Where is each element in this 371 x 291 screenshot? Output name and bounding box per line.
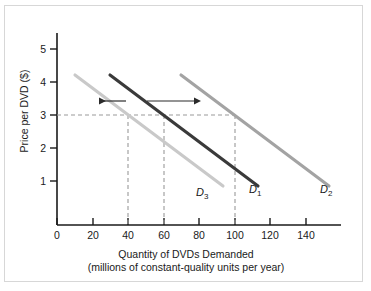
dashed-guide-lines — [57, 115, 235, 225]
curve-label-d2-sub: 2 — [328, 189, 332, 198]
curve-label-d1-text: D — [249, 183, 257, 195]
x-tick-label-140: 140 — [291, 229, 321, 241]
curve-label-d1: D1 — [249, 183, 261, 198]
curve-label-d2-text: D — [320, 183, 328, 195]
x-tick-marks — [57, 218, 306, 225]
x-tick-label-100: 100 — [220, 229, 250, 241]
y-tick-label-5: 5 — [30, 43, 46, 55]
curve-label-d3-sub: 3 — [204, 192, 208, 201]
curve-label-d3-text: D — [196, 186, 204, 198]
x-tick-label-60: 60 — [149, 229, 179, 241]
y-tick-label-4: 4 — [30, 76, 46, 88]
curve-label-d2: D2 — [320, 183, 332, 198]
y-tick-label-3: 3 — [30, 109, 46, 121]
y-axis-title: Price per DVD ($) — [18, 56, 30, 166]
x-tick-label-20: 20 — [78, 229, 108, 241]
x-tick-label-0: 0 — [42, 229, 72, 241]
y-tick-marks — [50, 49, 57, 181]
x-axis-title: Quantity of DVDs Demanded — [86, 248, 286, 260]
demand-curve-d1 — [110, 75, 258, 186]
x-axis-subtitle: (millions of constant-quality units per … — [56, 261, 316, 273]
curve-label-d1-sub: 1 — [257, 189, 261, 198]
x-tick-label-40: 40 — [113, 229, 143, 241]
x-tick-label-120: 120 — [255, 229, 285, 241]
y-tick-label-1: 1 — [30, 175, 46, 187]
y-tick-label-2: 2 — [30, 142, 46, 154]
x-tick-label-80: 80 — [184, 229, 214, 241]
curve-label-d3: D3 — [196, 186, 208, 201]
